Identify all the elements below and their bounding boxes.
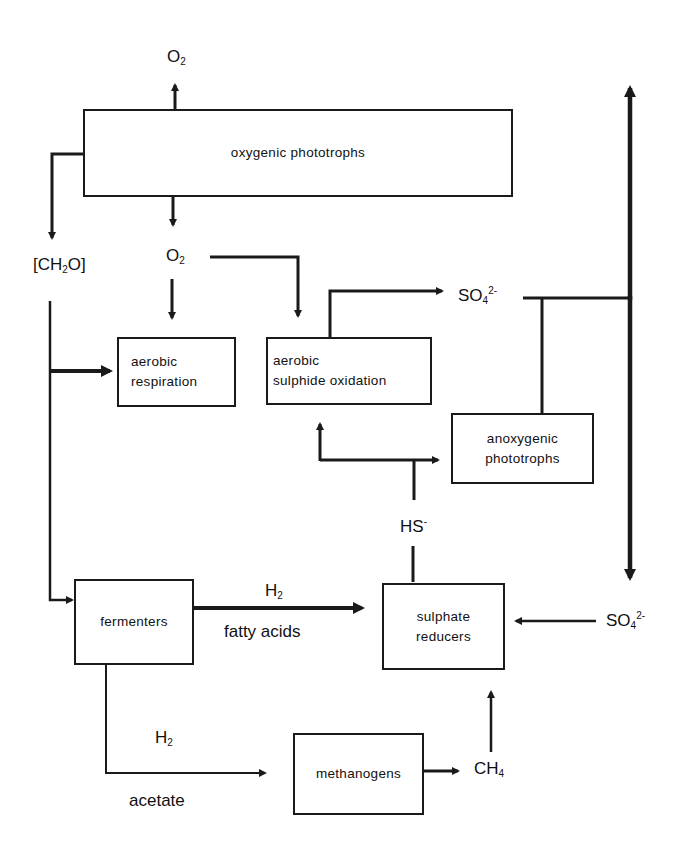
arrow-sulphide-oxidation-to-so4	[330, 291, 442, 337]
label-o2-top: O2	[167, 47, 186, 67]
label-h2-lower: H2	[155, 728, 173, 748]
label-so4-right: SO42-	[606, 610, 645, 631]
node-label-line1: sulphate	[417, 607, 470, 627]
node-label-line2: phototrophs	[485, 449, 560, 469]
label-ch2o: [CH2O]	[33, 255, 86, 275]
node-aerobic-respiration: aerobic respiration	[117, 337, 236, 407]
label-hs: HS-	[400, 516, 427, 537]
node-oxygenic-phototrophs: oxygenic phototrophs	[83, 109, 513, 197]
label-acetate: acetate	[129, 791, 185, 811]
arrow-oxygenic-to-ch2o	[52, 154, 83, 238]
label-h2-upper: H2	[265, 581, 283, 601]
node-fermenters: fermenters	[74, 579, 194, 665]
label-so4-top: SO42-	[458, 285, 497, 306]
node-label-line1: anoxygenic	[487, 429, 558, 449]
label-ch4: CH4	[474, 759, 504, 779]
node-label-line2: respiration	[131, 372, 197, 392]
node-label-line1: aerobic	[131, 352, 177, 372]
node-label-line2: sulphide oxidation	[273, 371, 386, 391]
node-label-line1: aerobic	[273, 351, 319, 371]
node-aerobic-sulphide-oxidation: aerobic sulphide oxidation	[266, 337, 432, 405]
label-o2-mid: O2	[166, 246, 185, 266]
node-anoxygenic-phototrophs: anoxygenic phototrophs	[451, 413, 594, 484]
arrow-o2-to-sulphide-oxidation	[210, 257, 298, 316]
node-sulphate-reducers: sulphate reducers	[382, 583, 505, 670]
node-methanogens: methanogens	[293, 733, 424, 815]
label-fatty-acids: fatty acids	[224, 622, 301, 642]
node-label-line2: reducers	[416, 627, 471, 647]
line-ch2o-trunk	[50, 301, 72, 600]
node-label: fermenters	[100, 612, 168, 632]
node-label: methanogens	[316, 764, 401, 784]
node-label: oxygenic phototrophs	[231, 143, 365, 163]
arrow-fermenters-to-methanogens	[106, 664, 265, 773]
